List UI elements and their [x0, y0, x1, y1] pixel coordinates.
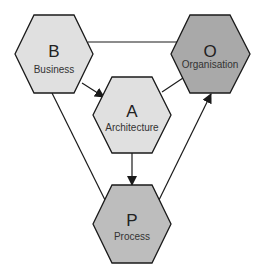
- node-label: Organisation: [182, 59, 239, 70]
- hexagon-diagram: B Business O Organisation A Architecture…: [0, 0, 261, 276]
- node-organisation: O Organisation: [171, 15, 250, 93]
- node-letter: P: [126, 211, 137, 230]
- node-label: Process: [114, 231, 150, 242]
- edge-b-a-arrow: [82, 83, 104, 97]
- node-letter: A: [126, 102, 138, 121]
- node-business: B Business: [15, 15, 93, 93]
- node-architecture: A Architecture: [93, 77, 171, 153]
- node-label: Business: [34, 64, 75, 75]
- diagram-canvas: B Business O Organisation A Architecture…: [0, 0, 261, 276]
- node-process: P Process: [93, 185, 171, 263]
- node-label: Architecture: [105, 122, 159, 133]
- node-letter: B: [48, 42, 59, 61]
- edge-a-o: [162, 78, 183, 92]
